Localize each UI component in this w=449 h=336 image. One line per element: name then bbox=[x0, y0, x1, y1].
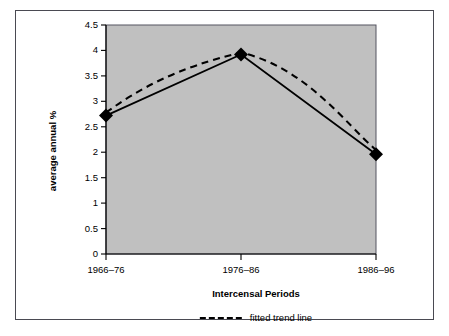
y-tick-label-9: 4.5 bbox=[74, 20, 98, 30]
y-tick-label-6: 3 bbox=[74, 97, 98, 107]
y-tick-label-8: 4 bbox=[74, 46, 98, 56]
x-tick-label-1976-86: 1976–86 bbox=[223, 265, 260, 275]
legend-item-label: fitted trend line bbox=[250, 312, 312, 323]
y-axis-ticks bbox=[101, 25, 106, 254]
y-axis-title: average annual % bbox=[47, 111, 58, 191]
y-tick-label-1: 0.5 bbox=[74, 224, 98, 234]
y-tick-label-5: 2.5 bbox=[74, 122, 98, 132]
y-tick-label-3: 1.5 bbox=[74, 173, 98, 183]
y-tick-label-2: 1 bbox=[74, 198, 98, 208]
chart-figure-frame: 0 0.5 1 1.5 2 2.5 3 3.5 4 4.5 1966–76 19… bbox=[15, 10, 434, 320]
x-tick-label-1986-96: 1986–96 bbox=[358, 265, 395, 275]
dashed-line-swatch-icon bbox=[200, 317, 242, 319]
x-axis-ticks bbox=[106, 254, 376, 260]
chart-legend: fitted trend line bbox=[200, 312, 312, 323]
y-tick-label-7: 3.5 bbox=[74, 71, 98, 81]
y-tick-label-4: 2 bbox=[74, 147, 98, 157]
x-axis-title: Intercensal Periods bbox=[212, 288, 300, 299]
x-tick-label-1966-76: 1966–76 bbox=[88, 265, 125, 275]
y-tick-label-0: 0 bbox=[74, 249, 98, 259]
